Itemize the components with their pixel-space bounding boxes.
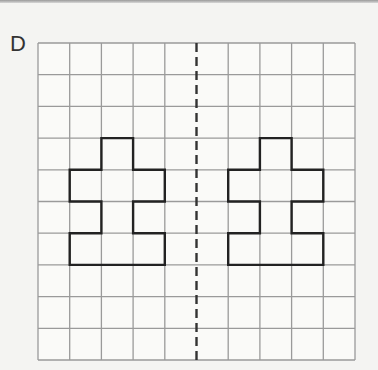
- reflection-grid: [0, 0, 378, 370]
